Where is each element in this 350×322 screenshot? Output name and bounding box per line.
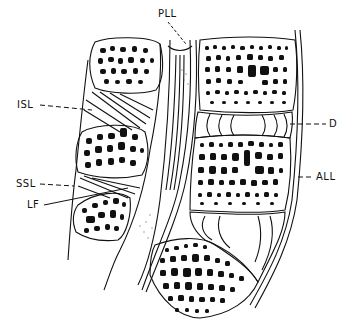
label-d: D [329, 119, 337, 129]
label-pll: PLL [158, 9, 177, 19]
leader-isl [40, 105, 92, 110]
label-isl: ISL [17, 100, 33, 110]
leader-pll [168, 22, 186, 44]
trabecular-texture [82, 45, 288, 313]
spinous-process-upper [90, 38, 163, 93]
label-all: ALL [316, 172, 335, 182]
spine-diagram [0, 0, 350, 322]
stipple-texture [139, 69, 189, 239]
label-ssl: SSL [16, 179, 36, 189]
label-lf: LF [27, 200, 39, 210]
leader-ssl [40, 184, 74, 186]
